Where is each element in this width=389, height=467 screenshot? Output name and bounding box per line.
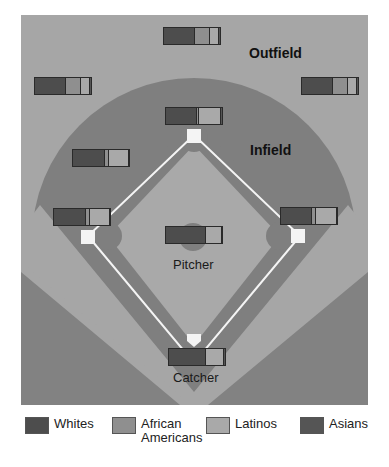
legend-item-latinos: Latinos xyxy=(206,417,277,434)
bar-segment-latinos xyxy=(198,108,219,124)
first-base xyxy=(291,229,305,243)
legend-label-latinos: Latinos xyxy=(235,417,277,431)
bar-segment-asians xyxy=(220,108,222,124)
bar-segment-whites xyxy=(35,78,65,94)
bar-segment-asians xyxy=(218,28,220,44)
bar-segment-asians xyxy=(336,208,337,224)
bar-segment-african-americans xyxy=(332,78,348,94)
bar-segment-asians xyxy=(356,78,358,94)
bar-segment-whites xyxy=(54,209,85,225)
legend-label-whites: Whites xyxy=(54,417,94,431)
bar-shortstop xyxy=(72,149,130,167)
bar-catcher xyxy=(168,348,226,366)
bar-segment-whites xyxy=(73,150,104,166)
bar-segment-latinos xyxy=(205,349,223,365)
bar-first-base xyxy=(280,207,338,225)
bar-segment-latinos xyxy=(108,150,128,166)
bar-pitcher xyxy=(165,226,223,244)
legend-swatch-latinos xyxy=(206,417,230,434)
legend: Whites AfricanAmericans Latinos Asians xyxy=(0,417,389,457)
outfield-label: Outfield xyxy=(249,45,302,61)
bar-segment-latinos xyxy=(315,208,336,224)
bar-segment-latinos xyxy=(209,28,217,44)
bar-second-base xyxy=(165,107,223,125)
infield-label: Infield xyxy=(250,142,291,158)
bar-left-field xyxy=(34,77,92,95)
legend-label-african-americans: AfricanAmericans xyxy=(141,417,202,445)
bar-right-field xyxy=(301,77,359,95)
legend-label-asians: Asians xyxy=(329,417,368,431)
bar-segment-whites xyxy=(169,349,205,365)
bar-segment-latinos xyxy=(347,78,355,94)
bar-segment-whites xyxy=(302,78,332,94)
legend-swatch-asians xyxy=(300,417,324,434)
bar-third-base xyxy=(53,208,111,226)
bar-segment-asians xyxy=(109,209,110,225)
bar-segment-whites xyxy=(166,227,205,243)
bar-segment-whites xyxy=(281,208,311,224)
legend-item-asians: Asians xyxy=(300,417,368,434)
bar-segment-asians xyxy=(223,349,225,365)
third-base xyxy=(81,230,95,244)
bar-center-field xyxy=(163,27,221,45)
bar-segment-asians xyxy=(128,150,129,166)
catcher-label: Catcher xyxy=(173,370,219,385)
bar-segment-latinos xyxy=(89,209,109,225)
legend-item-african-americans: AfricanAmericans xyxy=(112,417,202,445)
bar-segment-african-americans xyxy=(65,78,81,94)
bar-segment-african-americans xyxy=(194,28,210,44)
bar-segment-whites xyxy=(166,108,196,124)
bar-segment-asians xyxy=(221,227,222,243)
bar-segment-whites xyxy=(164,28,194,44)
bar-segment-latinos xyxy=(205,227,221,243)
legend-item-whites: Whites xyxy=(25,417,94,434)
bar-segment-latinos xyxy=(80,78,88,94)
second-base xyxy=(187,129,201,143)
bar-segment-asians xyxy=(89,78,91,94)
legend-swatch-whites xyxy=(25,417,49,434)
pitcher-label: Pitcher xyxy=(173,257,213,272)
legend-swatch-african-americans xyxy=(112,417,136,434)
